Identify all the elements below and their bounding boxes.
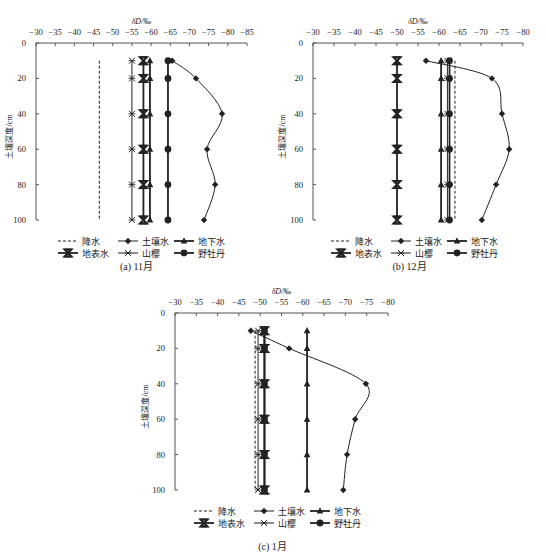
diamond-marker [125, 238, 131, 244]
chart-plot-november: −30−35−40−45−50−55−60−65−70−75−80−85δD/‰… [0, 0, 273, 260]
x-tick-label: −35 [190, 297, 203, 307]
x-tick-label: −55 [125, 27, 138, 37]
diamond-marker [286, 345, 292, 351]
y-tick-label: 80 [157, 450, 166, 460]
legend: 降水土壤水地下水地表水山樱野牡丹 [58, 236, 225, 259]
legend-item: 降水 [58, 236, 100, 247]
x-tick-label: −40 [348, 27, 361, 37]
circle-marker [446, 110, 453, 117]
x-tick-label: −40 [211, 297, 224, 307]
series-bowtie [394, 57, 401, 223]
x-axis-label: δD/‰ [272, 287, 292, 296]
circle-marker [261, 451, 268, 458]
legend-label: 野牡丹 [471, 248, 498, 259]
y-tick-label: 0 [299, 38, 303, 48]
x-tick-label: −70 [339, 297, 352, 307]
series-triangle [438, 57, 445, 223]
x-tick-label: −70 [183, 27, 196, 37]
circle-marker [446, 146, 453, 153]
triangle-marker [304, 327, 311, 333]
circle-marker [261, 487, 268, 494]
legend-label: 山樱 [415, 248, 433, 259]
triangle-marker [438, 57, 445, 63]
circle-marker [165, 146, 172, 153]
diamond-marker [423, 58, 429, 64]
legend-label: 野牡丹 [334, 518, 361, 529]
x-tick-label: −50 [254, 297, 267, 307]
circle-marker [446, 217, 453, 224]
diamond-marker [248, 328, 254, 334]
triangle-marker [304, 451, 311, 457]
circle-marker [165, 57, 172, 64]
plot-area [394, 57, 513, 224]
diamond-marker [352, 416, 358, 422]
axes: −30−35−40−45−50−55−60−65−70−75−80−85δD/‰… [4, 17, 254, 225]
legend-label: 山樱 [142, 248, 160, 259]
legend-item: 地表水 [331, 248, 382, 259]
chart-caption: (c) 1月 [136, 538, 409, 553]
legend-label: 土壤水 [415, 236, 442, 247]
triangle-marker [304, 415, 311, 421]
diamond-marker [493, 181, 499, 187]
x-tick-label: −75 [360, 297, 373, 307]
x-tick-label: −50 [106, 27, 119, 37]
legend-label: 山樱 [278, 518, 296, 529]
axes: −30−35−40−45−50−55−60−65−70−75−80δD/‰020… [277, 17, 530, 225]
series-circle [165, 57, 172, 223]
circle-marker [165, 75, 172, 82]
y-tick-label: 40 [295, 109, 304, 119]
x-tick-label: −55 [411, 27, 424, 37]
diamond-marker [499, 111, 505, 117]
legend-label: 降水 [82, 236, 100, 247]
x-tick-label: −50 [390, 27, 403, 37]
circle-marker [165, 110, 172, 117]
legend-label: 降水 [355, 236, 373, 247]
legend-item: 野牡丹 [174, 248, 225, 259]
series-bowtie [140, 57, 147, 223]
asterisk-marker [125, 250, 132, 256]
series-asterisk [128, 58, 135, 223]
y-tick-label: 100 [152, 485, 165, 495]
legend-item: 地表水 [194, 518, 245, 529]
y-tick-label: 60 [157, 414, 166, 424]
y-tick-label: 60 [295, 144, 304, 154]
legend-label: 地表水 [82, 248, 109, 259]
diamond-marker [479, 217, 485, 223]
x-tick-label: −65 [453, 27, 466, 37]
diamond-marker [506, 146, 512, 152]
chart-january: −30−35−40−45−50−55−60−65−70−75−80δD/‰020… [136, 280, 409, 557]
triangle-marker [304, 345, 311, 351]
x-tick-label: −75 [495, 27, 508, 37]
circle-marker [317, 520, 324, 527]
triangle-marker [438, 181, 445, 187]
asterisk-marker [398, 250, 405, 256]
triangle-marker [438, 145, 445, 151]
legend-item: 山樱 [254, 518, 296, 529]
triangle-marker [304, 380, 311, 386]
x-tick-label: −60 [296, 297, 309, 307]
legend: 降水土壤水地下水地表水山樱野牡丹 [194, 506, 361, 529]
y-tick-label: 20 [18, 73, 27, 83]
legend-label: 土壤水 [142, 236, 169, 247]
triangle-marker [438, 75, 445, 81]
legend-item: 地表水 [58, 248, 109, 259]
legend-item: 地下水 [310, 506, 361, 517]
y-tick-label: 100 [290, 215, 303, 225]
x-tick-label: −85 [240, 27, 253, 37]
circle-marker [261, 380, 268, 387]
x-tick-label: −70 [474, 27, 487, 37]
circle-marker [261, 416, 268, 423]
legend-label: 地下水 [334, 506, 361, 517]
x-tick-label: −65 [317, 297, 330, 307]
axes: −30−35−40−45−50−55−60−65−70−75−80δD/‰020… [140, 287, 395, 495]
x-tick-label: −30 [168, 297, 181, 307]
x-axis-label: δD/‰ [132, 17, 152, 26]
chart-december: −30−35−40−45−50−55−60−65−70−75−80δD/‰020… [273, 0, 546, 275]
diamond-marker [219, 111, 225, 117]
plot-area [99, 57, 225, 224]
y-tick-label: 60 [18, 144, 27, 154]
x-tick-label: −80 [381, 297, 394, 307]
circle-marker [165, 217, 172, 224]
x-tick-label: −40 [68, 27, 81, 37]
x-tick-label: −55 [275, 297, 288, 307]
